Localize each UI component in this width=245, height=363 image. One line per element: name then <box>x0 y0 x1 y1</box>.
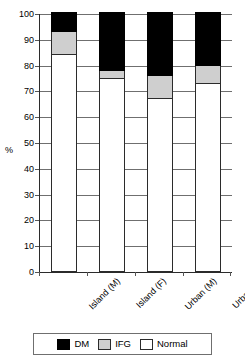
stacked-bar-chart-figure: % 0102030405060708090100 Island (M)Islan… <box>0 0 245 363</box>
plot-area <box>39 14 232 273</box>
bar-segment-dm <box>195 12 221 66</box>
bar-segment-normal <box>51 53 77 272</box>
bar <box>195 14 221 272</box>
bar-segment-normal <box>195 82 221 272</box>
legend-entry: IFG <box>98 339 131 350</box>
bar-segment-dm <box>147 12 173 76</box>
legend-entry: DM <box>57 339 89 350</box>
x-axis-tick-label: Urban (M) <box>183 276 219 312</box>
legend-label: DM <box>74 339 89 349</box>
y-axis-tick-label: 30 <box>14 190 34 199</box>
bar-group <box>40 14 232 272</box>
y-axis-tick-label: 40 <box>14 164 34 173</box>
legend-swatch-ifg <box>98 339 111 350</box>
x-axis-tick-label: Island (F) <box>134 276 168 310</box>
legend-entry: Normal <box>140 339 188 350</box>
y-axis-tick-labels: 0102030405060708090100 <box>14 14 34 272</box>
y-axis-tick-label: 20 <box>14 216 34 225</box>
legend-label: IFG <box>115 339 131 349</box>
y-axis-tick-label: 90 <box>14 35 34 44</box>
bar-segment-normal <box>99 77 125 273</box>
legend-swatch-dm <box>57 339 70 350</box>
x-axis-tick-labels: Island (M)Island (F)Urban (M)Urban (F) <box>39 276 239 324</box>
bar-segment-ifg <box>195 64 221 84</box>
x-axis-tick-label: Urban (F) <box>230 276 245 310</box>
x-axis-tick-label: Island (M) <box>87 276 122 311</box>
y-axis-tick-label: 100 <box>14 10 34 19</box>
bar-segment-dm <box>99 12 125 71</box>
chart-legend: DMIFGNormal <box>33 333 212 355</box>
bar-segment-ifg <box>147 74 173 99</box>
y-axis-tick-label: 80 <box>14 61 34 70</box>
bar <box>147 14 173 272</box>
y-axis-tick-label: 10 <box>14 242 34 251</box>
y-axis-tick-label: 50 <box>14 139 34 148</box>
bar <box>51 14 77 272</box>
legend-swatch-normal <box>140 339 153 350</box>
legend-label: Normal <box>157 339 188 349</box>
bar-segment-dm <box>51 12 77 32</box>
bar-segment-normal <box>147 97 173 272</box>
bar <box>99 14 125 272</box>
y-axis-tick-label: 0 <box>14 268 34 277</box>
y-axis-tick-label: 70 <box>14 87 34 96</box>
bar-segment-ifg <box>51 30 77 55</box>
y-axis-tick-label: 60 <box>14 113 34 122</box>
